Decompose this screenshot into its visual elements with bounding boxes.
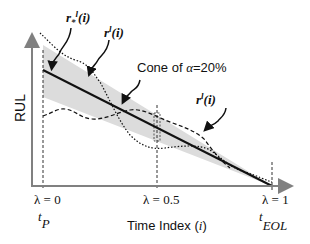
r-pred2-label: rl(i) <box>196 91 216 107</box>
y-axis-label: RUL <box>12 94 28 122</box>
r-pred-label: rl(i) <box>104 24 124 40</box>
ground-truth-line <box>43 70 272 186</box>
cone-label: Cone of α=20% <box>137 60 227 75</box>
teol-label: tEOL <box>259 209 287 233</box>
cone-pointer <box>124 80 140 100</box>
tp-label: tP <box>38 209 50 231</box>
lambda1-label: λ = 1 <box>262 192 289 207</box>
lambda0-label: λ = 0 <box>34 192 61 207</box>
r-star-label: r*l(i) <box>66 9 90 27</box>
rul-cone-chart: RUL r*l(i) rl(i) Cone of α=20% rl(i) λ =… <box>0 0 310 244</box>
lambda05-label: λ = 0.5 <box>143 192 179 207</box>
x-axis-label: Time Index (i) <box>127 218 207 233</box>
r-pred2-pointer <box>207 108 226 128</box>
r-pred-pointer <box>90 40 109 72</box>
